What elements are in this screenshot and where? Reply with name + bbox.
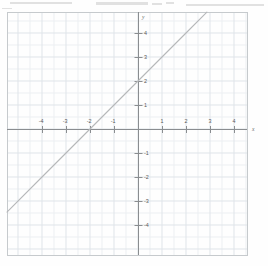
y-tick-label: -4 [144, 222, 149, 228]
x-tick-label: -3 [63, 118, 68, 124]
x-tick-label: -1 [111, 118, 116, 124]
x-tick-label: -2 [87, 118, 92, 124]
x-tick-label: 2 [184, 118, 187, 124]
y-tick-label: 4 [144, 30, 147, 36]
x-tick-label: 3 [208, 118, 211, 124]
plot-frame-border [8, 13, 248, 256]
y-tick-label: -3 [144, 198, 149, 204]
y-tick-label: 3 [144, 54, 147, 60]
y-tick-label: 1 [144, 102, 147, 108]
x-tick-label: 4 [232, 118, 235, 124]
minor-gridlines [7, 12, 247, 255]
y-tick-label: -2 [144, 174, 149, 180]
x-tick-label: -4 [39, 118, 44, 124]
graph-page: -4-3-2-112344321-1-2-3-4 x y [0, 0, 268, 266]
y-tick-label: -1 [144, 150, 149, 156]
y-axis-label: y [142, 14, 144, 20]
coordinate-plane [0, 0, 268, 266]
x-tick-label: 1 [160, 118, 163, 124]
series-lines [7, 12, 207, 212]
major-gridlines [7, 12, 247, 255]
y-tick-label: 2 [144, 78, 147, 84]
x-axis-label: x [252, 126, 254, 132]
